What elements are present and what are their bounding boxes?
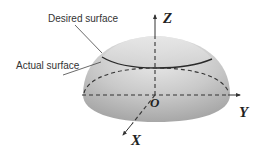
- origin-label: O: [150, 95, 160, 110]
- z-axis-label: Z: [162, 10, 172, 26]
- desired-surface-leader: [75, 25, 102, 53]
- surface-diagram: Desired surface Actual surface Z Y X O: [0, 0, 263, 151]
- desired-surface-label: Desired surface: [48, 13, 118, 24]
- actual-surface-label: Actual surface: [16, 60, 80, 71]
- x-axis-label: X: [130, 132, 142, 148]
- y-axis-label: Y: [239, 104, 250, 120]
